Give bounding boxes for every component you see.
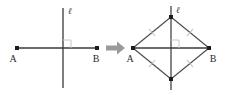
label-point-b: B [93,53,100,64]
point-a-dot [15,46,19,50]
label-line-ell: ℓ [176,5,180,15]
left-diagram-panel: A B ℓ [0,0,112,95]
right-diagram-panel: A B ℓ [124,0,236,95]
tick-mark-a-bottom [149,60,155,67]
right-diagram-svg: A B ℓ [124,0,236,95]
right-angle-marker-icon [171,40,179,48]
label-point-a: A [9,53,17,64]
transformation-arrow-icon [106,40,126,56]
arrow-glyph [106,42,125,55]
vertex-bottom-dot [169,77,173,81]
geometry-figure: A B ℓ [0,0,236,95]
tick-mark-top-b [187,29,193,36]
right-angle-marker-icon [63,40,71,48]
left-diagram-svg: A B ℓ [0,0,112,95]
tick-mark-a-top [149,29,155,36]
point-b-dot [95,46,99,50]
tick-mark-bottom-b [187,60,193,67]
point-b-dot [207,46,211,50]
vertex-top-dot [169,15,173,19]
point-a-dot [131,46,135,50]
label-point-a: A [126,53,134,64]
label-line-ell: ℓ [68,6,72,16]
label-point-b: B [210,53,217,64]
